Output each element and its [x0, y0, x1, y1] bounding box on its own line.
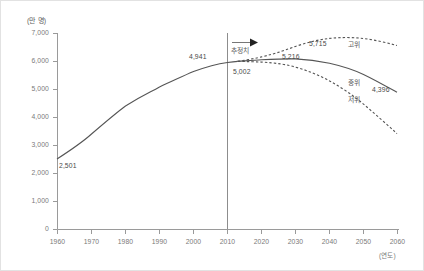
- x-tick-label-2030: 2030: [283, 239, 308, 246]
- x-tick-label-1980: 1980: [113, 239, 138, 246]
- value-label-2501: 2,501: [59, 163, 77, 170]
- x-tick-label-1970: 1970: [79, 239, 104, 246]
- value-label-5002: 5,002: [233, 69, 251, 76]
- chart-canvas: [1, 1, 424, 271]
- x-tick-label-1960: 1960: [45, 239, 70, 246]
- y-tick-label-2000: 2,000: [17, 170, 49, 177]
- value-label-4941: 4,941: [189, 54, 207, 61]
- x-tick-label-1990: 1990: [147, 239, 172, 246]
- x-tick-label-2050: 2050: [351, 239, 376, 246]
- y-tick-label-6000: 6,000: [17, 58, 49, 65]
- estimate-annotation-label: 추정치: [231, 48, 249, 55]
- x-tick-label-2060: 2060: [385, 239, 410, 246]
- x-tick-label-2040: 2040: [317, 239, 342, 246]
- y-tick-label-4000: 4,000: [17, 114, 49, 121]
- value-label-4396: 4,396: [372, 87, 390, 94]
- y-tick-label-0: 0: [17, 226, 49, 233]
- series-historical-line: [57, 61, 238, 159]
- series-low-line: [238, 61, 397, 133]
- y-tick-label-1000: 1,000: [17, 198, 49, 205]
- estimate-arrow-icon: [232, 39, 258, 47]
- x-axis-name-label: (연도): [379, 253, 396, 260]
- series-label-high: 고위: [348, 42, 360, 49]
- y-tick-label-7000: 7,000: [17, 30, 49, 37]
- population-projection-figure: (만 명) 7,000 6,000 5,000 4,000 3,000 2,00…: [0, 0, 424, 271]
- x-tick-label-2020: 2020: [249, 239, 274, 246]
- value-label-5715: 5,715: [309, 41, 327, 48]
- x-tick-marks: [58, 230, 398, 235]
- series-label-low: 저위: [348, 97, 360, 104]
- y-tick-label-3000: 3,000: [17, 142, 49, 149]
- value-label-5216: 5,216: [282, 54, 300, 61]
- y-axis-unit-label: (만 명): [27, 17, 46, 24]
- y-tick-marks: [53, 34, 58, 230]
- x-tick-label-2000: 2000: [181, 239, 206, 246]
- series-label-mid: 중위: [348, 80, 360, 87]
- x-tick-label-2010: 2010: [215, 239, 240, 246]
- y-tick-label-5000: 5,000: [17, 86, 49, 93]
